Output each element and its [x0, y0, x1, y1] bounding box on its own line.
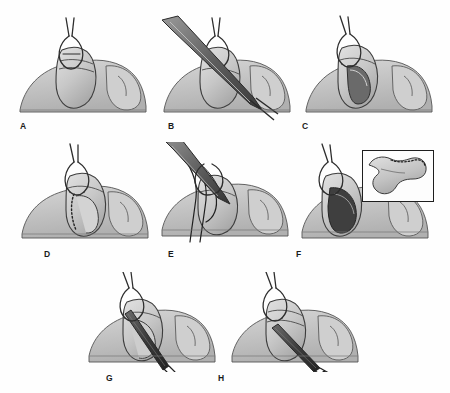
panel-e-illustration: [158, 142, 298, 246]
panel-b: [158, 14, 298, 122]
figure-container: A: [0, 0, 450, 393]
panel-e: [158, 142, 298, 246]
panel-label-g: G: [106, 374, 113, 383]
tubular-structure: [198, 175, 237, 234]
panel-c-illustration: [300, 14, 440, 122]
panel-c: [300, 14, 440, 122]
panel-h-illustration: [228, 272, 368, 372]
panel-a-illustration: [14, 14, 154, 122]
panel-label-e: E: [168, 250, 174, 259]
panel-f-inset-box: [362, 150, 434, 202]
excised-specimen-illustration: [363, 151, 432, 200]
panel-label-c: C: [302, 122, 308, 131]
panel-h: [228, 272, 368, 372]
panel-a: [14, 14, 154, 122]
panel-g: [85, 272, 225, 372]
panel-b-illustration: [158, 14, 298, 122]
panel-label-d: D: [44, 250, 50, 259]
tubular-structure: [56, 47, 96, 108]
specimen-body: [369, 157, 426, 194]
panel-label-h: H: [218, 374, 224, 383]
panel-d: [14, 142, 154, 246]
panel-label-f: F: [296, 250, 301, 259]
panel-label-a: A: [20, 122, 26, 131]
panel-g-illustration: [85, 272, 225, 372]
panel-label-b: B: [168, 122, 174, 131]
panel-d-illustration: [14, 142, 154, 246]
